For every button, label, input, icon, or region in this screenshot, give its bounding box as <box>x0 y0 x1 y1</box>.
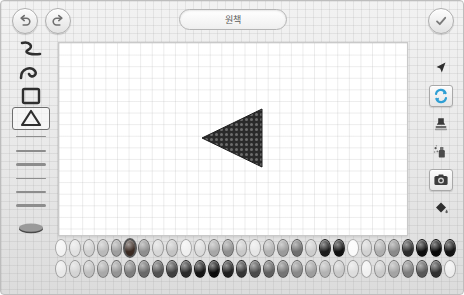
camera-icon <box>432 171 450 189</box>
spray-tool[interactable] <box>429 141 453 163</box>
color-swatch[interactable] <box>152 239 164 257</box>
color-swatch[interactable] <box>180 239 192 257</box>
redo-arrow-icon <box>50 13 66 29</box>
color-swatch[interactable] <box>97 260 109 278</box>
color-swatch[interactable] <box>166 239 178 257</box>
color-swatch[interactable] <box>194 239 206 257</box>
cursor-tool[interactable] <box>429 57 453 79</box>
color-swatch[interactable] <box>430 239 442 257</box>
stroke-width-2[interactable] <box>12 144 50 158</box>
color-swatch[interactable] <box>416 239 428 257</box>
color-swatch[interactable] <box>166 260 178 278</box>
color-swatch[interactable] <box>305 239 317 257</box>
color-swatch[interactable] <box>319 260 331 278</box>
color-swatch[interactable] <box>152 260 164 278</box>
rotate-tool[interactable] <box>429 85 453 107</box>
swatch-row-bottom <box>10 260 456 278</box>
color-swatch[interactable] <box>83 239 95 257</box>
document-title-field[interactable]: 원책 <box>179 9 287 30</box>
redo-button[interactable] <box>45 8 71 34</box>
color-palette <box>10 239 456 289</box>
color-swatch[interactable] <box>361 260 373 278</box>
triangle-icon <box>19 108 43 128</box>
color-swatch[interactable] <box>347 260 359 278</box>
color-swatch[interactable] <box>236 239 248 257</box>
color-swatch[interactable] <box>388 239 400 257</box>
color-swatch[interactable] <box>97 239 109 257</box>
color-swatch[interactable] <box>55 239 67 257</box>
color-swatch[interactable] <box>249 260 261 278</box>
confirm-button[interactable] <box>428 8 454 34</box>
color-swatch[interactable] <box>222 260 234 278</box>
color-swatch[interactable] <box>194 260 206 278</box>
color-swatch[interactable] <box>111 239 123 257</box>
color-swatch[interactable] <box>208 239 220 257</box>
curve-icon <box>18 62 44 84</box>
paint-bucket-icon <box>432 199 450 217</box>
color-swatch[interactable] <box>277 260 289 278</box>
stroke-width-5[interactable] <box>12 185 50 199</box>
undo-arrow-icon <box>17 13 33 29</box>
brush-stroke-icon <box>16 220 46 236</box>
fill-tool[interactable] <box>429 197 453 219</box>
color-swatch[interactable] <box>55 260 67 278</box>
color-swatch[interactable] <box>277 239 289 257</box>
triangle-shape[interactable] <box>199 107 265 169</box>
paint-app-window: 원책 <box>0 0 464 295</box>
color-swatch[interactable] <box>333 260 345 278</box>
curve-tool[interactable] <box>12 62 50 85</box>
color-swatch[interactable] <box>388 260 400 278</box>
stamp-icon <box>432 115 450 133</box>
stroke-width-4[interactable] <box>12 171 50 185</box>
color-swatch[interactable] <box>83 260 95 278</box>
color-swatch[interactable] <box>249 239 261 257</box>
color-swatch[interactable] <box>291 260 303 278</box>
color-swatch[interactable] <box>208 260 220 278</box>
left-tool-rail <box>9 39 53 239</box>
refresh-arrows-icon <box>432 87 450 105</box>
swatch-row-top <box>10 239 456 257</box>
arrow-cursor-icon <box>432 59 450 77</box>
rectangle-icon <box>19 85 43 107</box>
color-swatch[interactable] <box>305 260 317 278</box>
rectangle-tool[interactable] <box>12 84 50 107</box>
color-swatch[interactable] <box>236 260 248 278</box>
color-swatch[interactable] <box>291 239 303 257</box>
color-swatch[interactable] <box>124 260 136 278</box>
stamp-tool[interactable] <box>429 113 453 135</box>
color-swatch[interactable] <box>263 260 275 278</box>
stroke-width-3[interactable] <box>12 157 50 171</box>
brush-stroke-preview[interactable] <box>12 216 50 239</box>
drawing-canvas[interactable] <box>58 42 408 236</box>
stroke-width-6[interactable] <box>12 199 50 213</box>
squiggle-icon <box>18 39 44 61</box>
color-swatch[interactable] <box>111 260 123 278</box>
color-swatch[interactable] <box>319 239 331 257</box>
color-swatch[interactable] <box>138 260 150 278</box>
color-swatch[interactable] <box>361 239 373 257</box>
color-swatch[interactable] <box>374 260 386 278</box>
squiggle-line-tool[interactable] <box>12 39 50 62</box>
color-swatch[interactable] <box>347 239 359 257</box>
color-swatch[interactable] <box>138 239 150 257</box>
color-swatch[interactable] <box>374 239 386 257</box>
triangle-tool[interactable] <box>12 107 50 130</box>
camera-tool[interactable] <box>429 169 453 191</box>
color-swatch[interactable] <box>180 260 192 278</box>
right-tool-rail <box>427 57 455 219</box>
color-swatch[interactable] <box>222 239 234 257</box>
color-swatch[interactable] <box>333 239 345 257</box>
color-swatch[interactable] <box>69 260 81 278</box>
color-swatch[interactable] <box>402 260 414 278</box>
color-swatch[interactable] <box>124 239 136 257</box>
check-icon <box>433 13 449 29</box>
color-swatch[interactable] <box>402 239 414 257</box>
color-swatch[interactable] <box>430 260 442 278</box>
color-swatch[interactable] <box>263 239 275 257</box>
stroke-width-1[interactable] <box>12 130 50 144</box>
color-swatch[interactable] <box>69 239 81 257</box>
color-swatch[interactable] <box>416 260 428 278</box>
color-swatch[interactable] <box>444 239 456 257</box>
color-swatch[interactable] <box>444 260 456 278</box>
undo-button[interactable] <box>12 8 38 34</box>
